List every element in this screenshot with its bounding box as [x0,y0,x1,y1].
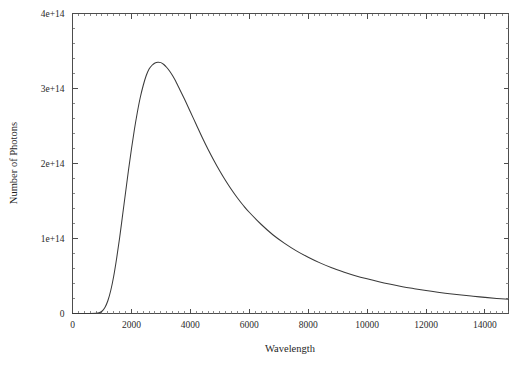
y-axis-title: Number of Photons [8,122,19,204]
x-tick-label: 4000 [181,320,200,330]
y-tick-label: 0 [60,309,65,319]
x-tick-label: 10000 [355,320,379,330]
chart-figure: 02000400060008000100001200014000 01e+142… [0,0,528,366]
plot-canvas: 02000400060008000100001200014000 01e+142… [0,0,528,366]
y-tick-label: 2e+14 [41,159,65,169]
x-tick-label: 12000 [414,320,438,330]
y-tick-label: 3e+14 [41,84,65,94]
x-tick-label: 6000 [240,320,259,330]
y-tick-label: 4e+14 [41,9,65,19]
y-tick-label: 1e+14 [41,234,65,244]
x-tick-label: 8000 [299,320,318,330]
x-tick-label: 0 [70,320,75,330]
x-tick-label: 14000 [473,320,497,330]
x-axis-title: Wavelength [265,343,316,354]
x-tick-label: 2000 [122,320,141,330]
figure-background [0,0,528,366]
